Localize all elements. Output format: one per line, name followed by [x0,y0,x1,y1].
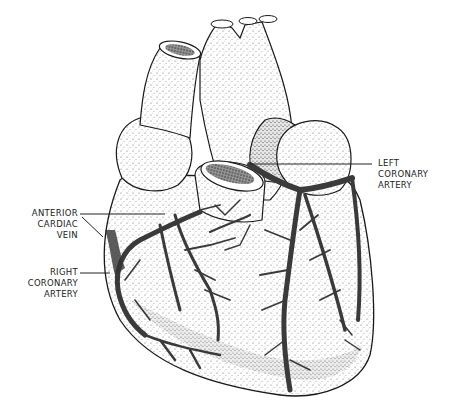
label-line: ANTERIOR [32,208,78,219]
label-anterior-cardiac-vein: ANTERIOR CARDIAC VEIN [32,208,78,241]
label-right-coronary-artery: RIGHT CORONARY ARTERY [28,267,78,300]
label-line: ARTERY [378,180,428,191]
label-left-coronary-artery: LEFT CORONARY ARTERY [378,158,428,191]
label-line: CARDIAC [32,219,78,230]
label-line: LEFT [378,158,428,169]
label-line: VEIN [32,230,78,241]
superior-vena-cava [140,48,200,138]
carotid-opening [239,18,257,25]
brachiocephalic-opening [211,20,233,28]
subclavian-opening [259,16,277,23]
label-line: ARTERY [28,289,78,300]
label-line: CORONARY [378,169,428,180]
label-line: CORONARY [28,278,78,289]
leader-anterior-cardiac-vein-d [82,217,103,237]
label-line: RIGHT [28,267,78,278]
